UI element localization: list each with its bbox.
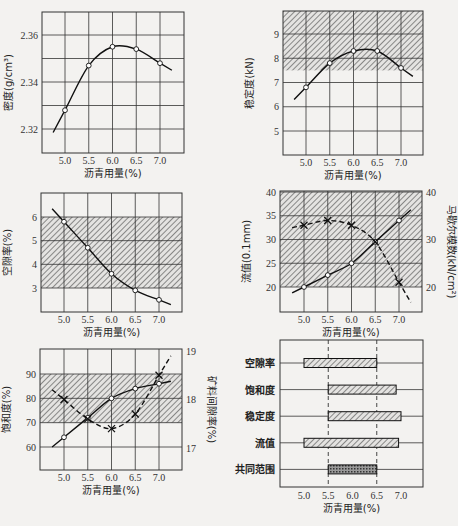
data-point [109,271,114,276]
data-point [133,386,138,391]
x-tick-label: 5.0 [58,314,71,325]
category-label: 饱和度 [245,384,276,396]
y-tick-label: 70 [26,417,36,428]
data-point [110,44,115,49]
x-tick-label: 5.5 [324,157,337,168]
x-tick-label: 6.0 [345,314,358,325]
y-right-axis-label: 马歇尔模数(kN/cm²) [446,205,458,299]
x-tick-label: 6.0 [347,157,360,168]
y-tick-label: 25 [266,258,276,269]
range-bar [304,438,399,447]
y-axis-label: 空隙率(%) [1,229,13,276]
y-axis-label: 稳定度(kN) [243,57,255,108]
marshall-design-figure: 5.05.56.06.57.02.322.342.36沥青用量(%)密度(g/c… [0,0,458,526]
x-tick-label: 5.5 [322,490,335,501]
y-tick-label: 3 [32,283,37,294]
data-point [349,261,354,266]
y-tick-label: 6 [32,212,37,223]
data-point [325,273,330,278]
data-point [157,381,162,386]
x-tick-label: 6.0 [105,314,118,325]
x-tick-label: 7.0 [395,157,408,168]
subplot-6: 空隙率饱和度稳定度流值共同范围5.05.56.06.57.0沥青用量(%) [235,340,423,514]
y-tick-label: 2.34 [21,77,39,88]
data-point [85,245,90,250]
x-axis-label: 沥青用量(%) [324,169,381,181]
data-point [375,49,380,54]
subplot-3: 5.05.56.06.57.03456沥青用量(%)空隙率(%) [1,193,182,338]
y-tick-label: 40 [266,187,276,198]
y-tick-label: 7 [274,77,279,88]
y-tick-label: 5 [274,126,279,137]
y-right-tick-label: 40 [426,187,436,198]
acceptable-range-shading [283,11,423,70]
x-tick-label: 6.5 [129,472,142,483]
y-right-tick-label: 18 [186,394,196,405]
data-point [157,297,162,302]
category-label: 共同范围 [235,463,275,475]
data-point [351,49,356,54]
y-right-tick-label: 20 [426,282,436,293]
y-tick-label: 5 [32,235,37,246]
data-point [397,218,402,223]
x-axis-label: 沥青用量(%) [84,167,141,179]
x-tick-label: 6.5 [371,157,384,168]
y-tick-label: 20 [266,282,276,293]
x-axis-label: 沥青用量(%) [82,484,139,496]
x-tick-label: 5.0 [298,314,311,325]
x-tick-label: 7.0 [153,472,166,483]
x-tick-label: 7.0 [395,490,408,501]
x-tick-label: 6.0 [105,472,118,483]
data-point [62,219,67,224]
x-tick-label: 5.5 [82,472,95,483]
y-tick-label: 80 [26,393,36,404]
y-tick-label: 8 [274,53,279,64]
data-point [302,285,307,290]
y-right-tick-label: 30 [426,234,436,245]
y-tick-label: 6 [274,101,279,112]
data-point [399,66,404,71]
y-tick-label: 9 [274,29,279,40]
data-point [109,396,114,401]
y-axis-label: 密度(g/cm³) [2,54,14,111]
x-tick-label: 5.0 [58,472,71,483]
category-label: 稳定度 [245,410,276,422]
x-tick-label: 6.5 [371,490,384,501]
range-bar [328,465,377,474]
subplot-1: 5.05.56.06.57.02.322.342.36沥青用量(%)密度(g/c… [2,12,184,179]
y-tick-label: 60 [26,442,36,453]
x-tick-label: 5.5 [82,314,95,325]
category-label: 空隙率 [245,357,275,369]
data-point [134,47,139,52]
y-tick-label: 2.36 [21,30,39,41]
data-point [158,61,163,66]
subplot-4: 5.05.56.06.57.02025303540203040沥青用量(%)流值… [240,187,458,339]
x-tick-label: 5.5 [322,314,335,325]
x-tick-label: 5.5 [83,155,96,166]
x-axis-label: 沥青用量(%) [323,502,380,514]
y-tick-label: 30 [266,234,276,245]
data-point [63,108,68,113]
x-tick-label: 5.0 [298,490,311,501]
x-axis-label: 沥青用量(%) [322,326,379,338]
y-axis-label: 流值(0.1mm) [240,220,252,283]
x-axis-label: 沥青用量(%) [83,326,140,338]
category-label: 流值 [255,437,275,449]
y-tick-label: 2.32 [21,124,39,135]
y-tick-label: 4 [32,259,37,270]
plot-frame [42,12,184,153]
y-right-tick-label: 17 [186,443,196,454]
x-tick-label: 7.0 [153,314,166,325]
x-tick-label: 6.0 [106,155,119,166]
data-point [62,435,67,440]
subplot-2: 5.05.56.06.57.056789沥青用量(%)稳定度(kN) [243,11,423,181]
data-point [86,63,91,68]
y-right-axis-label: 矿料间隙率(%) [206,376,218,443]
subplot-5: 5.05.56.06.57.060708090171819沥青用量(%)饱和度(… [0,346,218,497]
data-point [327,61,332,66]
y-tick-label: 90 [26,369,36,380]
range-bar [328,412,401,421]
y-right-tick-label: 19 [186,346,196,357]
range-bar [304,359,377,368]
x-tick-label: 6.5 [129,314,142,325]
